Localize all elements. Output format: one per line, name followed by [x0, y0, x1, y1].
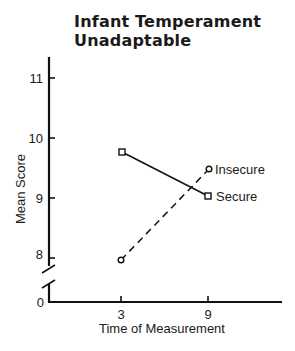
- insecure-series-line: [121, 169, 209, 260]
- axis-break-mark-upper: [42, 265, 55, 273]
- y-tick-label-11: 11: [30, 71, 44, 86]
- y-tick-label-8: 8: [36, 247, 43, 262]
- insecure-marker-t3: [118, 257, 124, 263]
- y-tick-label-0: 0: [37, 295, 44, 310]
- insecure-marker-t9: [206, 166, 212, 172]
- line-chart: 11 10 9 8 0 3 9 Time of Measurement Mean…: [0, 0, 295, 351]
- secure-series-line: [122, 152, 208, 196]
- secure-label: Secure: [216, 189, 257, 204]
- secure-marker-t3: [119, 149, 125, 155]
- x-tick-label-3: 3: [117, 307, 124, 322]
- insecure-label: Insecure: [215, 162, 265, 177]
- x-tick-label-9: 9: [204, 307, 211, 322]
- secure-marker-t9: [205, 193, 211, 199]
- y-axis-label: Mean Score: [13, 154, 28, 224]
- y-tick-label-10: 10: [29, 131, 43, 146]
- y-tick-label-9: 9: [36, 191, 43, 206]
- x-axis-label: Time of Measurement: [99, 321, 225, 336]
